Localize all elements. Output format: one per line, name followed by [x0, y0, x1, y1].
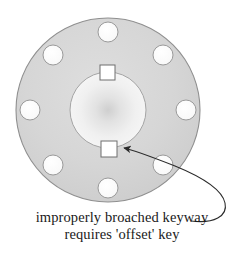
- flange-keyway-figure: improperly broached keyway requires 'off…: [0, 0, 244, 258]
- bolt-hole-e: [176, 100, 196, 120]
- keyway-bottom-offset: [101, 141, 117, 157]
- bolt-hole-n: [98, 22, 118, 42]
- bolt-hole-s: [98, 178, 118, 198]
- bolt-hole-nw: [43, 45, 63, 65]
- bolt-hole-sw: [43, 155, 63, 175]
- caption-line-2: requires 'offset' key: [0, 226, 244, 242]
- bolt-hole-w: [20, 100, 40, 120]
- caption-line-1: improperly broached keyway: [0, 209, 244, 225]
- bolt-hole-ne: [153, 45, 173, 65]
- keyway-top: [100, 65, 115, 80]
- center-bore: [70, 72, 146, 148]
- bolt-hole-se: [153, 155, 173, 175]
